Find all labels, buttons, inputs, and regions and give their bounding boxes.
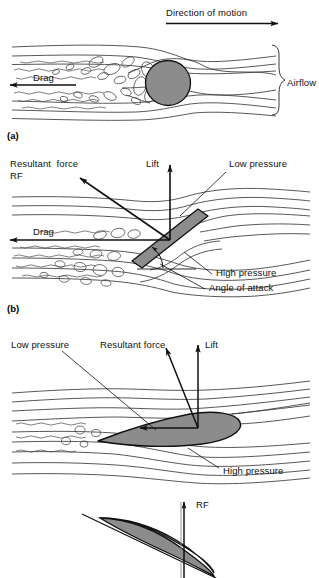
label-resultant-force-b-line2: RF (10, 170, 23, 181)
label-direction-of-motion: Direction of motion (166, 7, 247, 18)
label-resultant-force-c: Resultant force (100, 339, 165, 350)
panel-c-group (12, 345, 310, 484)
panel-d-group (82, 502, 216, 578)
leader-angle-of-attack-b (160, 264, 205, 289)
streamlines-lower-a (12, 95, 276, 121)
aerodynamics-figure: Direction of motion Drag Airflow (a) Res… (0, 0, 319, 578)
streamlines-upper-b (12, 188, 310, 219)
label-airflow: Airflow (287, 77, 316, 88)
label-low-pressure-b: Low pressure (229, 158, 287, 169)
label-drag-b: Drag (33, 226, 54, 237)
leader-low-pressure-b (180, 172, 226, 216)
label-lift-b: Lift (146, 158, 159, 169)
resultant-force-arrow-b (80, 178, 170, 240)
label-angle-of-attack-b: Angle of attack (209, 282, 273, 293)
streamlines-upper-a (12, 45, 276, 74)
label-high-pressure-b: High pressure (216, 267, 276, 278)
turbulent-wake-c (16, 423, 86, 452)
panel-tag-a: (a) (7, 130, 19, 141)
label-rf-d: RF (196, 499, 209, 510)
panel-tag-b: (b) (7, 303, 19, 314)
label-low-pressure-c: Low pressure (11, 339, 69, 350)
leader-high-pressure-b (184, 252, 212, 274)
wake-eddies-a (52, 55, 157, 106)
label-resultant-force-b-line1: Resultant force (10, 158, 78, 169)
aerofoil-section-d-fill (100, 518, 214, 576)
streamlines-upper-c (12, 381, 310, 421)
airflow-brace (272, 45, 285, 115)
label-high-pressure-c: High pressure (223, 465, 283, 476)
bluff-body-circle (146, 61, 191, 106)
label-drag-a: Drag (33, 72, 54, 83)
chord-line (82, 514, 216, 578)
label-lift-c: Lift (205, 339, 218, 350)
